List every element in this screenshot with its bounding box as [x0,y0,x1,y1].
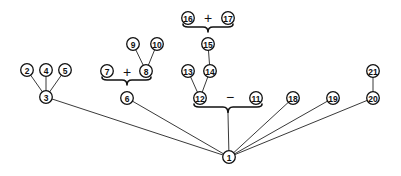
node-11-label: 11 [252,94,261,104]
operator-16-17-group: + [204,10,212,26]
node-14-label: 14 [205,67,215,77]
node-18: 18 [287,92,300,105]
node-5-label: 5 [63,66,68,76]
node-7-label: 7 [105,67,110,77]
node-4: 4 [40,64,53,77]
node-17-label: 17 [223,14,233,24]
node-14: 14 [204,65,217,78]
node-12-label: 12 [195,94,205,104]
brace-12-11-group [194,104,262,113]
node-5: 5 [59,64,72,77]
node-21-label: 21 [368,67,378,77]
node-9: 9 [127,38,140,51]
node-19: 19 [327,92,340,105]
node-4-label: 4 [44,66,49,76]
node-8: 8 [140,65,153,78]
node-11: 11 [250,92,263,105]
node-17: 17 [222,12,235,25]
node-8-label: 8 [144,67,149,77]
node-9-label: 9 [131,40,136,50]
node-2-label: 2 [25,66,30,76]
node-7: 7 [101,65,114,78]
node-10: 10 [151,38,164,51]
tree-diagram: ++− 123456789101112131415161718192021 [0,0,401,176]
node-3-label: 3 [44,93,49,103]
node-21: 21 [367,65,380,78]
node-3: 3 [40,91,53,104]
node-10-label: 10 [152,40,162,50]
node-2: 2 [21,64,34,77]
node-6: 6 [121,92,134,105]
operator-7-8-group: + [123,64,131,80]
node-16: 16 [182,12,195,25]
node-12: 12 [194,92,207,105]
node-15-label: 15 [203,40,213,50]
node-18-label: 18 [288,94,298,104]
operator-12-11-group: − [226,89,234,105]
node-1: 1 [223,151,236,164]
node-6-label: 6 [125,94,130,104]
node-16-label: 16 [183,14,193,24]
node-20-label: 20 [368,94,378,104]
node-13-label: 13 [183,67,193,77]
node-19-label: 19 [328,94,338,104]
node-1-label: 1 [227,153,232,163]
node-13: 13 [182,65,195,78]
node-15: 15 [202,38,215,51]
node-20: 20 [367,92,380,105]
edge-1-3 [46,97,229,157]
